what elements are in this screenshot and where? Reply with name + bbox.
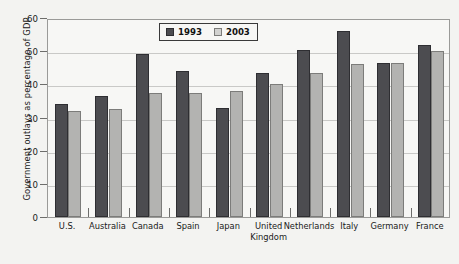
y-tick: 20 bbox=[0, 147, 47, 157]
bar-group bbox=[176, 20, 203, 217]
x-tick-label: France bbox=[404, 221, 456, 232]
y-tick-label: 10 bbox=[27, 180, 38, 190]
bar bbox=[230, 91, 243, 217]
legend-label: 1993 bbox=[178, 27, 202, 37]
bar bbox=[418, 45, 431, 217]
bar-group bbox=[55, 20, 82, 217]
bar-series-container bbox=[48, 20, 449, 217]
x-tick-mark bbox=[169, 208, 170, 217]
bar bbox=[270, 84, 283, 217]
bar bbox=[256, 73, 269, 217]
bar bbox=[189, 93, 202, 217]
y-tick-label: 0 bbox=[33, 213, 38, 223]
bar bbox=[149, 93, 162, 217]
y-tick-mark bbox=[40, 184, 47, 185]
x-tick-mark bbox=[88, 208, 89, 217]
bar bbox=[95, 96, 108, 217]
y-tick-mark bbox=[40, 51, 47, 52]
bar bbox=[391, 63, 404, 217]
y-tick: 50 bbox=[0, 47, 47, 57]
x-tick-mark bbox=[250, 208, 251, 217]
x-tick-mark bbox=[290, 208, 291, 217]
y-tick-label: 40 bbox=[27, 80, 38, 90]
y-tick-label: 60 bbox=[27, 14, 38, 24]
bar bbox=[68, 111, 81, 217]
bar-group bbox=[95, 20, 122, 217]
y-tick-label: 30 bbox=[27, 114, 38, 124]
bar-group bbox=[297, 20, 324, 217]
y-tick-label: 50 bbox=[27, 47, 38, 57]
legend-item-1993: 1993 bbox=[166, 27, 202, 37]
y-tick-mark bbox=[40, 217, 47, 218]
y-tick: 30 bbox=[0, 114, 47, 124]
legend-label: 2003 bbox=[226, 27, 250, 37]
y-tick-mark bbox=[40, 18, 47, 19]
x-tick-mark bbox=[411, 208, 412, 217]
bar bbox=[176, 71, 189, 217]
bar-group bbox=[136, 20, 163, 217]
y-tick: 10 bbox=[0, 180, 47, 190]
bar bbox=[431, 51, 444, 217]
bar-group bbox=[418, 20, 445, 217]
bar bbox=[310, 73, 323, 217]
chart-legend: 1993 2003 bbox=[159, 23, 258, 41]
x-tick-mark bbox=[129, 208, 130, 217]
x-tick-mark bbox=[370, 208, 371, 217]
bar bbox=[136, 54, 149, 217]
bar bbox=[216, 108, 229, 217]
bar-group bbox=[377, 20, 404, 217]
y-tick: 60 bbox=[0, 14, 47, 24]
y-tick-mark bbox=[40, 118, 47, 119]
bar bbox=[109, 109, 122, 217]
bar-chart: Government outlays as percentage of GDP … bbox=[0, 0, 459, 264]
y-tick: 40 bbox=[0, 80, 47, 90]
y-tick: 0 bbox=[0, 213, 47, 223]
legend-item-2003: 2003 bbox=[214, 27, 250, 37]
y-tick-mark bbox=[40, 84, 47, 85]
y-tick-label: 20 bbox=[27, 147, 38, 157]
x-tick-mark bbox=[209, 208, 210, 217]
bar bbox=[377, 63, 390, 217]
bar bbox=[297, 50, 310, 217]
dark-square-swatch-icon bbox=[166, 28, 174, 36]
light-square-swatch-icon bbox=[214, 28, 222, 36]
plot-area bbox=[47, 19, 450, 218]
x-axis-labels: U.S.AustraliaCanadaSpainJapanUnited King… bbox=[47, 221, 450, 261]
bar-group bbox=[256, 20, 283, 217]
bar bbox=[55, 104, 68, 217]
y-tick-mark bbox=[40, 151, 47, 152]
bar bbox=[337, 31, 350, 217]
bar-group bbox=[216, 20, 243, 217]
bar bbox=[351, 64, 364, 217]
x-tick-mark bbox=[330, 208, 331, 217]
bar-group bbox=[337, 20, 364, 217]
